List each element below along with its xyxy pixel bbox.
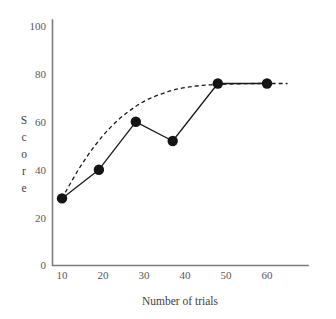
- y-tick-label: 80: [35, 68, 47, 80]
- y-axis-title-letter: S: [21, 114, 27, 126]
- observed-line: [62, 84, 267, 199]
- y-tick-label: 40: [35, 164, 47, 176]
- data-series-layer: [57, 78, 288, 203]
- line-chart: 100 80 60 40 20 0 10 20 30 40 50 60 S c …: [0, 0, 336, 319]
- y-axis-title-letter: r: [22, 165, 26, 177]
- data-point-marker: [168, 136, 178, 146]
- y-tick-label: 20: [35, 212, 47, 224]
- y-tick-label: 100: [30, 20, 47, 32]
- y-axis-tick-labels: 100 80 60 40 20 0: [30, 20, 47, 271]
- x-tick-label: 30: [139, 269, 151, 281]
- y-axis-title-letter: c: [21, 131, 26, 143]
- x-axis-tick-labels: 10 20 30 40 50 60: [57, 269, 274, 281]
- y-tick-label: 0: [41, 259, 47, 271]
- x-tick-label: 20: [98, 269, 110, 281]
- x-axis-title: Number of trials: [142, 295, 219, 307]
- y-axis-title-letter: e: [21, 182, 26, 194]
- chart-container: 100 80 60 40 20 0 10 20 30 40 50 60 S c …: [0, 0, 336, 319]
- x-tick-label: 60: [262, 269, 274, 281]
- y-axis-title: S c o r e: [21, 114, 27, 194]
- y-tick-label: 60: [35, 116, 47, 128]
- chart-axes: [53, 20, 309, 266]
- x-tick-label: 10: [57, 269, 69, 281]
- data-point-marker: [213, 78, 223, 88]
- x-tick-label: 40: [180, 269, 192, 281]
- x-tick-label: 50: [221, 269, 233, 281]
- data-point-marker: [131, 117, 141, 127]
- y-axis-title-letter: o: [21, 148, 27, 160]
- data-point-marker: [94, 165, 104, 175]
